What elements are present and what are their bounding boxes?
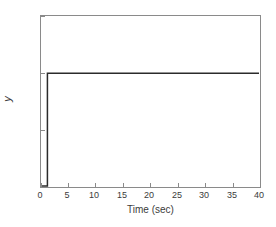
chart-figure: 0 5 10 15 20 25 30 35 40 0 0.5 1 1.5 Tim… [0,0,276,227]
y-axis-label: y [1,79,13,119]
x-axis-label: Time (sec) [40,204,261,215]
